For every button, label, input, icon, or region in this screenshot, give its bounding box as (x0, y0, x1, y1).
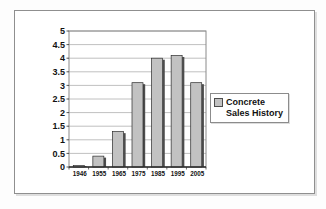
x-tick-label: 1985 (151, 170, 166, 177)
x-tick-label: 1955 (92, 170, 107, 177)
x-tick-label: 2005 (190, 170, 205, 177)
bar-2005 (191, 83, 202, 167)
y-tick-label: 4.5 (52, 40, 65, 50)
y-tick-label: 2 (60, 108, 65, 118)
y-tick-label: 1 (60, 135, 65, 145)
x-tick-label: 1946 (73, 170, 88, 177)
y-tick-label: 0.5 (52, 149, 65, 159)
y-tick-label: 0 (60, 162, 65, 172)
bar-1995 (171, 55, 182, 167)
y-tick-label: 3 (60, 81, 65, 91)
bar-1985 (152, 58, 163, 167)
x-tick-label: 1965 (112, 170, 127, 177)
x-tick-label: 1995 (171, 170, 186, 177)
y-tick-label: 1.5 (52, 121, 65, 131)
bar-1955 (93, 156, 104, 167)
y-tick-label: 4 (60, 53, 65, 63)
y-tick-label: 3.5 (52, 67, 65, 77)
y-tick-label: 5 (60, 26, 65, 36)
x-tick-label: 1975 (131, 170, 146, 177)
legend-label: Concrete Sales History (226, 97, 286, 119)
legend-swatch-icon (214, 98, 223, 107)
screenshot-stage: 00.511.522.533.544.551946195519651975198… (0, 0, 326, 209)
y-tick-label: 2.5 (52, 94, 65, 104)
chart-frame: 00.511.522.533.544.551946195519651975198… (14, 10, 315, 194)
bar-1975 (132, 83, 143, 167)
bar-1965 (112, 132, 123, 167)
legend: Concrete Sales History (210, 93, 289, 123)
